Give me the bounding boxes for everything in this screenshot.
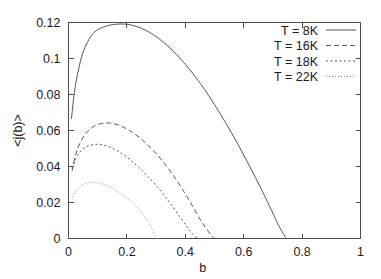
legend-label: T = 8K (281, 24, 319, 38)
y-tick-label: 0 (54, 232, 61, 246)
x-tick-label: 0.2 (118, 245, 135, 259)
y-tick-label: 0.02 (36, 196, 60, 210)
y-tick-label: 0.04 (36, 160, 60, 174)
legend-label: T = 22K (274, 70, 319, 84)
x-tick-label: 0.6 (235, 245, 252, 259)
x-axis-tick-labels: 00.20.40.60.81 (65, 245, 364, 259)
legend-label: T = 18K (274, 55, 319, 69)
y-axis-tick-labels: 00.020.040.060.080.10.12 (36, 16, 60, 246)
line-chart: 00.20.40.60.81 00.020.040.060.080.10.12 … (0, 0, 381, 279)
legend-entry-4: T = 22K (274, 70, 356, 84)
legend-entry-3: T = 18K (274, 55, 356, 69)
y-tick-label: 0.1 (43, 52, 60, 66)
x-tick-label: 0 (65, 245, 72, 259)
series-line-4 (72, 182, 156, 238)
y-tick-label: 0.12 (36, 16, 60, 30)
series-line-2 (72, 123, 215, 239)
y-tick-label: 0.08 (36, 88, 60, 102)
x-tick-label: 0.4 (177, 245, 194, 259)
chart-legend: T = 8KT = 16KT = 18KT = 22K (274, 24, 356, 85)
x-axis-title: b (199, 261, 206, 275)
data-series-group (71, 24, 286, 239)
y-axis-title: <j(b)> (11, 114, 25, 147)
y-axis-ticks (69, 23, 74, 239)
y-tick-label: 0.06 (36, 124, 60, 138)
legend-label: T = 16K (274, 39, 319, 53)
series-line-3 (72, 144, 198, 238)
figure-container: 00.20.40.60.81 00.020.040.060.080.10.12 … (0, 0, 381, 279)
x-axis-ticks (69, 234, 361, 239)
x-tick-label: 1 (357, 245, 364, 259)
legend-entry-2: T = 16K (274, 39, 356, 53)
legend-entry-1: T = 8K (281, 24, 356, 38)
right-axis-ticks (356, 23, 361, 239)
series-line-1 (71, 24, 286, 239)
x-tick-label: 0.8 (293, 245, 310, 259)
